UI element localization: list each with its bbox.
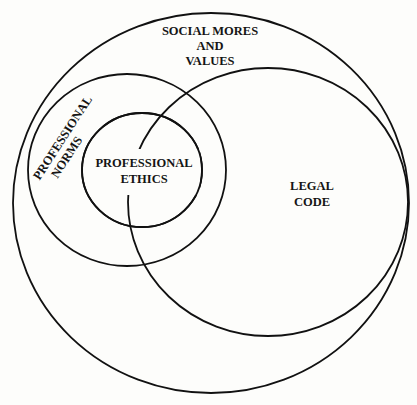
ethics-venn-diagram: SOCIAL MORES AND VALUES PROFESSIONAL NOR…	[0, 0, 417, 405]
legal-code-circle	[128, 68, 408, 336]
professional-ethics-label: PROFESSIONAL ETHICS	[90, 149, 200, 195]
social-mores-circle	[13, 13, 409, 393]
legal-code-label-line-1: LEGAL	[290, 179, 334, 193]
professional-ethics-label-line-2: ETHICS	[120, 172, 167, 186]
legal-code-label: LEGAL CODE	[290, 179, 334, 209]
social-mores-label-line-2: AND	[196, 39, 223, 53]
social-mores-label-line-3: VALUES	[185, 54, 234, 68]
social-mores-label: SOCIAL MORES AND VALUES	[162, 24, 258, 68]
legal-code-label-line-2: CODE	[294, 195, 330, 209]
professional-ethics-label-line-1: PROFESSIONAL	[95, 156, 192, 170]
social-mores-label-line-1: SOCIAL MORES	[162, 24, 258, 38]
